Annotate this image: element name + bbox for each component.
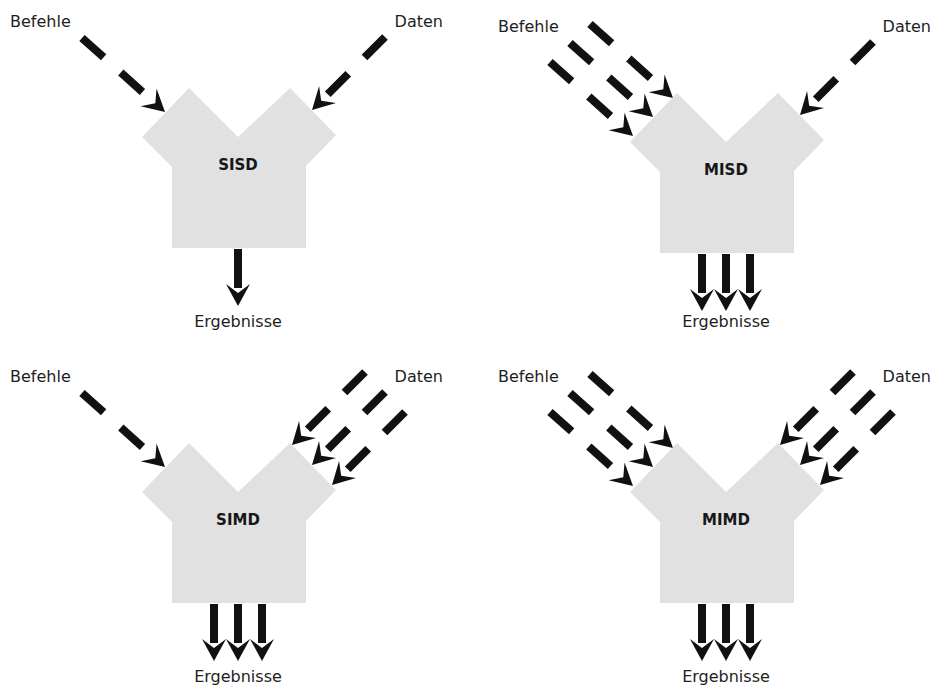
arrow-dash	[121, 428, 143, 447]
data-label: Daten	[395, 367, 443, 386]
result-arrows	[690, 254, 762, 311]
instruction-label: Befehle	[498, 367, 559, 386]
arrowhead-icon	[629, 443, 653, 467]
result-arrow	[714, 254, 738, 311]
arrow-dash	[590, 24, 612, 43]
result-arrows	[202, 604, 274, 661]
data-arrow	[312, 392, 385, 465]
arrow-dash	[609, 78, 631, 97]
data-arrow	[800, 392, 873, 465]
arrow-dash	[816, 79, 837, 100]
architecture-label: SIMD	[216, 511, 260, 529]
result-arrow	[738, 604, 762, 661]
arrow-dash	[570, 43, 592, 62]
arrow-dash	[629, 409, 651, 428]
data-label: Daten	[883, 17, 931, 36]
result-arrows	[690, 604, 762, 661]
arrow-dash	[609, 428, 631, 447]
arrow-dash	[852, 392, 873, 413]
result-arrow	[738, 254, 762, 311]
arrow-dash	[308, 409, 329, 430]
result-arrow	[226, 604, 250, 661]
arrow-dash	[364, 37, 385, 58]
instruction-arrow	[590, 374, 673, 448]
data-arrow	[780, 372, 853, 445]
arrow-dash	[550, 412, 572, 431]
result-label: Ergebnisse	[682, 312, 770, 331]
instruction-label: Befehle	[10, 12, 71, 31]
architecture-label: SISD	[218, 156, 258, 174]
instruction-label: Befehle	[10, 367, 71, 386]
arrow-dash	[121, 73, 143, 92]
architecture-label: MISD	[704, 161, 748, 179]
arrow-dash	[796, 409, 817, 430]
instruction-arrow	[550, 62, 633, 136]
arrowhead-icon	[141, 443, 165, 467]
flynn-taxonomy-diagram: Befehle Daten SISD Ergebnisse Befehle Da…	[0, 0, 942, 696]
quadrant-sisd: Befehle Daten SISD Ergebnisse	[10, 12, 443, 331]
arrowhead-icon	[609, 112, 633, 136]
result-arrow	[202, 604, 226, 661]
instruction-arrow	[550, 412, 633, 486]
result-arrow	[690, 604, 714, 661]
data-arrow	[820, 412, 893, 485]
instruction-arrow	[82, 393, 165, 467]
arrow-dash	[832, 372, 853, 393]
instruction-arrow	[82, 38, 165, 112]
arrow-dash	[82, 393, 104, 412]
data-label: Daten	[883, 367, 931, 386]
instruction-arrows	[82, 393, 165, 467]
instruction-arrows	[82, 38, 165, 112]
instruction-arrow	[570, 43, 653, 117]
arrow-dash	[344, 372, 365, 393]
arrow-dash	[589, 447, 611, 466]
arrow-dash	[852, 42, 873, 63]
arrowhead-icon	[649, 424, 673, 448]
data-arrow	[800, 42, 873, 115]
quadrant-simd: Befehle Daten SIMD Ergebnisse	[10, 367, 443, 686]
arrow-dash	[872, 412, 893, 433]
data-arrows	[800, 42, 873, 115]
arrow-dash	[348, 449, 369, 470]
instruction-label: Befehle	[498, 17, 559, 36]
arrow-dash	[550, 62, 572, 81]
quadrant-misd: Befehle Daten MISD Ergebnisse	[498, 17, 931, 331]
arrow-dash	[590, 374, 612, 393]
result-label: Ergebnisse	[194, 312, 282, 331]
arrow-dash	[836, 449, 857, 470]
data-arrow	[332, 412, 405, 485]
arrow-dash	[589, 97, 611, 116]
quadrant-mimd: Befehle Daten MIMD Ergebnisse	[498, 367, 931, 686]
arrowhead-icon	[141, 88, 165, 112]
arrow-dash	[384, 412, 405, 433]
arrowhead-icon	[629, 93, 653, 117]
result-label: Ergebnisse	[682, 667, 770, 686]
result-label: Ergebnisse	[194, 667, 282, 686]
data-arrow	[312, 37, 385, 110]
result-arrow	[250, 604, 274, 661]
arrow-dash	[82, 38, 104, 57]
arrow-dash	[328, 74, 349, 95]
arrowhead-icon	[609, 462, 633, 486]
result-arrow	[714, 604, 738, 661]
result-arrow	[690, 254, 714, 311]
instruction-arrow	[570, 393, 653, 467]
architecture-label: MIMD	[702, 511, 750, 529]
result-arrows	[226, 249, 250, 306]
result-arrow	[226, 249, 250, 306]
arrow-dash	[364, 392, 385, 413]
data-arrow	[292, 372, 365, 445]
data-arrows	[312, 37, 385, 110]
arrow-dash	[570, 393, 592, 412]
arrow-dash	[328, 429, 349, 450]
arrowhead-icon	[649, 74, 673, 98]
data-label: Daten	[395, 12, 443, 31]
instruction-arrow	[590, 24, 673, 98]
arrow-dash	[816, 429, 837, 450]
arrow-dash	[629, 59, 651, 78]
